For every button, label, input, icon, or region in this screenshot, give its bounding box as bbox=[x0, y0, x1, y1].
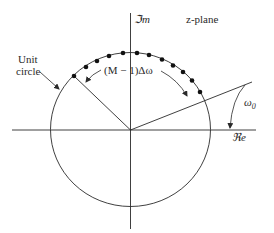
unit-label-line1: Unit bbox=[18, 53, 38, 65]
sample-point bbox=[160, 57, 165, 62]
real-axis-label: ℜe bbox=[232, 131, 246, 143]
arc-arrow-right bbox=[161, 71, 187, 96]
sample-point bbox=[121, 51, 126, 56]
sample-point bbox=[181, 70, 186, 75]
sample-point bbox=[72, 74, 77, 79]
sample-point bbox=[190, 78, 195, 83]
sample-point bbox=[171, 63, 176, 68]
sample-point bbox=[135, 51, 140, 56]
unit-label-line2: circle bbox=[16, 65, 41, 77]
arc-span-label: (M − 1)Δω bbox=[104, 64, 153, 77]
sample-point bbox=[198, 90, 203, 95]
omega0-arc-arrow bbox=[230, 85, 245, 128]
z-plane-diagram: ℑm z-plane Unit circle (M − 1)Δω ℜe ω0 bbox=[0, 0, 274, 233]
radial-line-start bbox=[74, 76, 131, 130]
sample-point bbox=[107, 54, 112, 59]
sample-point bbox=[84, 65, 89, 70]
sample-point bbox=[147, 53, 152, 58]
sample-point bbox=[95, 59, 100, 64]
unit-circle-leader bbox=[40, 72, 59, 89]
arc-arrow-left bbox=[86, 70, 101, 82]
omega-subscript: 0 bbox=[252, 102, 256, 111]
z-plane-title: z-plane bbox=[186, 13, 218, 25]
omega0-label: ω0 bbox=[244, 96, 256, 111]
imaginary-axis-label: ℑm bbox=[134, 13, 150, 25]
